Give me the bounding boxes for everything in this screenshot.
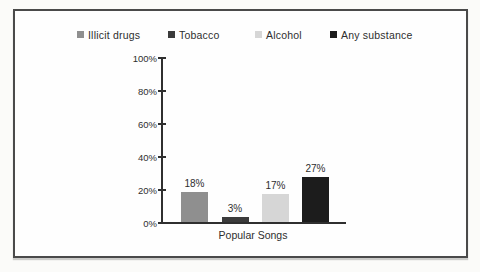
bar-value-label: 18%: [175, 178, 215, 189]
bar-value-label: 3%: [215, 203, 255, 214]
y-tick-label: 0%: [121, 218, 157, 229]
y-tick-label: 80%: [121, 86, 157, 97]
legend-label: Alcohol: [266, 29, 302, 41]
y-tick-mark: [158, 90, 166, 92]
bar-value-label: 27%: [296, 163, 336, 174]
bar-value-label: 17%: [256, 180, 296, 191]
y-tick-mark: [158, 222, 166, 224]
legend-label: Illicit drugs: [88, 29, 140, 41]
y-tick-mark: [158, 189, 166, 191]
legend-item: Alcohol: [255, 28, 302, 41]
legend-item: Any substance: [330, 28, 412, 41]
y-tick-label: 20%: [121, 185, 157, 196]
bar-illicit-drugs: [181, 192, 208, 222]
y-tick-label: 60%: [121, 119, 157, 130]
y-tick-mark: [158, 123, 166, 125]
bar-any-substance: [302, 177, 329, 222]
plot-area: 100%80%60%40%20%0% 18%3%17%27% Popular S…: [161, 57, 345, 222]
legend-swatch-icon: [77, 31, 84, 38]
y-axis-line: [161, 57, 163, 224]
bar-alcohol: [262, 194, 289, 222]
y-tick-label: 40%: [121, 152, 157, 163]
legend-swatch-icon: [330, 31, 337, 38]
legend-item: Tobacco: [168, 28, 220, 41]
legend-item: Illicit drugs: [77, 28, 140, 41]
scanned-figure-page: Illicit drugsTobaccoAlcoholAny substance…: [0, 0, 480, 272]
legend-label: Any substance: [341, 29, 412, 41]
x-axis-line: [160, 222, 346, 224]
legend-swatch-icon: [255, 31, 262, 38]
x-axis-label: Popular Songs: [161, 229, 345, 241]
y-tick-label: 100%: [121, 53, 157, 64]
bar-tobacco: [222, 217, 249, 222]
chart-frame: Illicit drugsTobaccoAlcoholAny substance…: [13, 9, 468, 258]
y-tick-mark: [158, 156, 166, 158]
y-tick-mark: [158, 57, 166, 59]
legend-swatch-icon: [168, 31, 175, 38]
legend-label: Tobacco: [179, 29, 220, 41]
